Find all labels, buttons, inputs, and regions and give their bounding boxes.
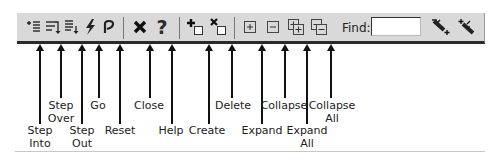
lightning-icon (84, 18, 96, 36)
expand-button[interactable] (242, 17, 258, 37)
step-out-label: StepOut (69, 124, 94, 150)
step-into-button[interactable] (26, 17, 42, 37)
collapse-label: Collapse (261, 99, 308, 112)
toolbar-separator (234, 17, 235, 39)
step-over-button[interactable] (45, 17, 61, 37)
expand-arrow (261, 50, 263, 124)
divider (15, 151, 485, 152)
close-label: Close (134, 99, 164, 112)
close-x-icon (132, 19, 148, 35)
create-node-icon (186, 18, 204, 36)
go-label: Go (90, 99, 105, 112)
step-over-icon (45, 18, 61, 36)
step-into-icon (26, 19, 42, 35)
minus-box-icon (267, 21, 279, 33)
step-into-label: StepInto (27, 124, 52, 150)
step-out-button[interactable] (64, 17, 80, 37)
collapse-button[interactable] (265, 17, 281, 37)
help-button[interactable]: ? (155, 17, 169, 37)
find-previous-button[interactable] (457, 17, 477, 37)
delete-label: Delete (215, 99, 251, 112)
go-button[interactable] (83, 17, 97, 37)
reset-button[interactable] (101, 17, 117, 37)
delete-node-icon (209, 18, 227, 36)
expand-label: Expand (241, 124, 282, 137)
reset-arrow (119, 50, 121, 124)
find-next-icon (431, 18, 451, 36)
find-input[interactable] (371, 17, 421, 36)
step-over-arrow (60, 50, 62, 98)
expand-all-label: ExpandAll (286, 124, 327, 150)
go-arrow (98, 50, 100, 98)
find-next-button[interactable] (431, 17, 451, 37)
collapse-all-label: CollapseAll (309, 99, 356, 125)
step-out-arrow (81, 50, 83, 124)
create-label: Create (189, 124, 226, 137)
find-label: Find: (342, 21, 371, 35)
help-arrow (171, 50, 173, 124)
debugger-toolbar: ? (17, 13, 485, 44)
close-button[interactable] (131, 17, 149, 37)
plus-box-icon (244, 21, 256, 33)
help-label: Help (158, 124, 183, 137)
collapse-all-arrow (330, 50, 332, 98)
step-out-icon (64, 18, 80, 36)
find-previous-icon (457, 18, 477, 36)
reset-label: Reset (105, 124, 136, 137)
delete-arrow (231, 50, 233, 98)
expand-all-icon (288, 19, 304, 35)
collapse-arrow (284, 50, 286, 98)
create-arrow (208, 50, 210, 124)
toolbar-separator (123, 17, 124, 39)
collapse-all-icon (311, 19, 327, 35)
step-over-label: StepOver (48, 99, 74, 125)
delete-button[interactable] (209, 17, 227, 37)
expand-all-button[interactable] (287, 17, 305, 37)
expand-all-arrow (306, 50, 308, 124)
create-button[interactable] (186, 17, 204, 37)
collapse-all-button[interactable] (310, 17, 328, 37)
toolbar-separator (179, 17, 180, 39)
close-arrow (149, 50, 151, 98)
step-into-arrow (39, 50, 41, 124)
undo-arrow-icon (101, 19, 117, 35)
question-mark-icon: ? (156, 16, 167, 38)
